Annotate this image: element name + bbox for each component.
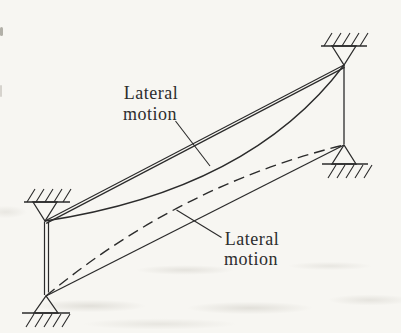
pin-triangle [34,296,58,313]
figure-canvas: Lateral motion Lateral motion [0,0,401,333]
leader-line-bottom-label [177,210,222,238]
diagram-ink [22,33,372,327]
pin-triangle [332,145,356,164]
support-hatching [26,314,70,327]
bottom-edge-line [46,145,344,296]
support-hatching [324,33,368,46]
pin-triangle [33,202,57,221]
support-hatching [27,189,71,202]
leader-line-top-label [176,121,211,166]
support-hatching [328,165,372,178]
bottom-label-line2: motion [224,249,278,269]
pin-support-right-middle [322,145,372,178]
top-label-line1: Lateral [124,83,178,103]
pin-support-left-middle [24,189,71,221]
pin-support-top-right [321,33,368,65]
beam-members [45,65,345,296]
top-edge-line-outer [45,65,344,221]
top-edge-line-inner [46,67,344,223]
pin-support-bottom-left [22,296,70,327]
beam-buckling-diagram: Lateral motion Lateral motion [0,0,401,333]
top-label-line2: motion [123,104,177,124]
bottom-label-line1: Lateral [225,229,279,249]
pin-triangle [332,46,356,65]
